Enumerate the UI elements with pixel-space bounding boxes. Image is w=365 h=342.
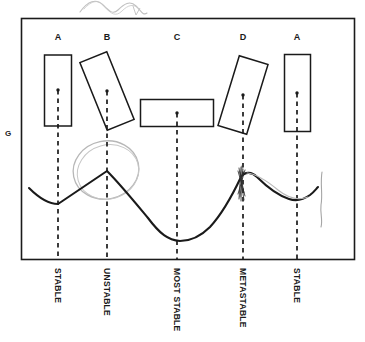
state-letter-d: D — [233, 33, 253, 42]
axis-tick-label-stable-left: STABLE — [54, 268, 63, 303]
axis-tick-label-unstable: UNSTABLE — [103, 268, 112, 316]
state-letter-a-left: A — [48, 33, 68, 42]
state-letter-c: C — [167, 33, 187, 42]
y-axis-label: G — [5, 130, 11, 138]
axis-tick-label-stable-right: STABLE — [293, 268, 302, 303]
state-letter-a-right: A — [287, 33, 307, 42]
axis-tick-label-metastable: METASTABLE — [239, 268, 248, 328]
scan-artifact-top-icon — [80, 1, 147, 15]
axis-tick-label-most-stable: MOST STABLE — [173, 268, 182, 332]
state-letter-b: B — [97, 33, 117, 42]
